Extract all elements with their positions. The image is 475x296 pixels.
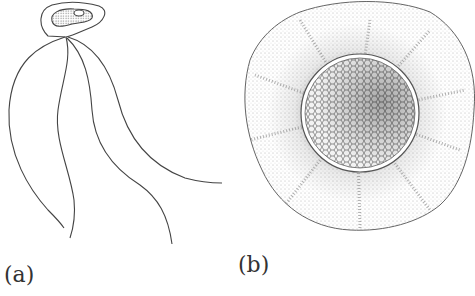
panel-a-label: (a) [4,262,34,287]
panel-a-drawing [9,2,222,244]
panel-b-drawing [245,2,475,231]
figure: (a) (b) [0,0,475,296]
panel-b-label: (b) [238,252,269,277]
